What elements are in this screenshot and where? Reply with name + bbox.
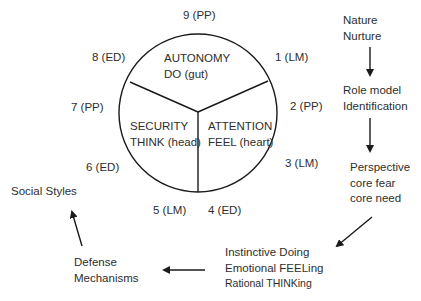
divider-left	[130, 82, 198, 112]
point-4-label: 4 (ED)	[208, 203, 241, 218]
role-model-text: Role model	[343, 83, 408, 99]
nature-nurture-block: Nature Nurture	[343, 13, 381, 44]
sector-security-subtitle: THINK (head)	[130, 135, 201, 151]
sector-autonomy-subtitle: DO (gut)	[164, 67, 230, 83]
role-model-block: Role model Identification	[343, 83, 408, 114]
sector-attention-title: ATTENTION	[208, 119, 273, 135]
perspective-block: Perspective core fear core need	[350, 160, 410, 207]
sector-autonomy-title: AUTONOMY	[164, 51, 230, 67]
point-6-label: 6 (ED)	[86, 160, 119, 175]
core-need-text: core need	[350, 191, 410, 207]
arrow-defense-to-social-icon	[72, 212, 82, 246]
sector-attention: ATTENTION FEEL (heart)	[208, 119, 273, 150]
divider-right	[198, 81, 268, 112]
point-3-label: 3 (LM)	[285, 156, 318, 171]
identification-text: Identification	[343, 99, 408, 115]
point-5-label: 5 (LM)	[153, 203, 186, 218]
rational-thinking-text: Rational THINKing	[225, 276, 323, 292]
modes-block: Instinctive Doing Emotional FEELing Rati…	[225, 245, 323, 292]
nature-text: Nature	[343, 13, 381, 29]
point-2-label: 2 (PP)	[290, 99, 323, 114]
sector-attention-subtitle: FEEL (heart)	[208, 135, 273, 151]
point-7-label: 7 (PP)	[71, 100, 104, 115]
diagram-canvas	[0, 0, 421, 301]
arrow-perspective-to-modes-icon	[337, 217, 372, 246]
social-styles-label: Social Styles	[11, 184, 77, 199]
sector-autonomy: AUTONOMY DO (gut)	[164, 51, 230, 82]
emotional-feeling-text: Emotional FEELing	[225, 261, 323, 277]
mechanisms-text: Mechanisms	[74, 271, 139, 287]
point-9-label: 9 (PP)	[183, 8, 216, 23]
defense-block: Defense Mechanisms	[74, 255, 139, 286]
point-8-label: 8 (ED)	[92, 50, 125, 65]
nurture-text: Nurture	[343, 29, 381, 45]
point-1-label: 1 (LM)	[275, 50, 308, 65]
perspective-text: Perspective	[350, 160, 410, 176]
sector-security: SECURITY THINK (head)	[130, 119, 201, 150]
defense-text: Defense	[74, 255, 139, 271]
sector-security-title: SECURITY	[130, 119, 201, 135]
core-fear-text: core fear	[350, 176, 410, 192]
instinctive-doing-text: Instinctive Doing	[225, 245, 323, 261]
